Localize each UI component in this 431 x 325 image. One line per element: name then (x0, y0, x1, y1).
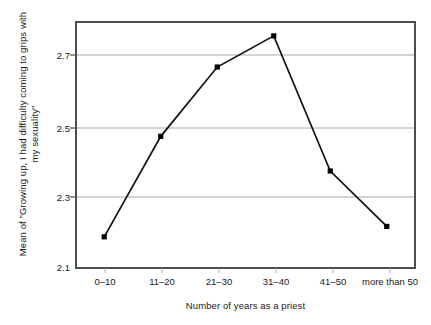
data-point-3 (215, 64, 220, 69)
x-axis-tick-label-more-than-50: more than 50 (355, 276, 425, 287)
plot-frame (76, 22, 415, 268)
data-point-6 (384, 224, 389, 229)
data-point-4 (271, 33, 276, 38)
data-point-1 (102, 234, 107, 239)
line-chart-figure: Mean of "Growing up, I had difficulty co… (0, 0, 431, 325)
x-axis-title: Number of years as a priest (76, 300, 415, 311)
data-point-2 (158, 134, 163, 139)
data-point-5 (328, 168, 333, 173)
